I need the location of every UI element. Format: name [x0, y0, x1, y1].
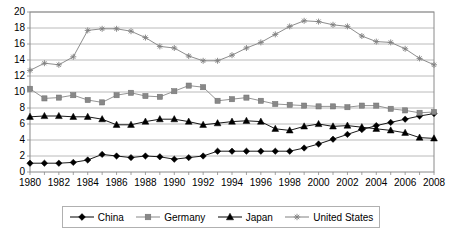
gridlines — [30, 12, 434, 156]
x-tick-label: 2008 — [418, 178, 450, 188]
y-tick-label: 18 — [0, 23, 25, 33]
series-japan — [27, 112, 438, 141]
chart-legend: ChinaGermanyJapanUnited States — [62, 206, 380, 228]
x-tick-label: 1988 — [129, 178, 161, 188]
legend-item-china[interactable]: China — [69, 211, 124, 223]
x-tick-label: 1996 — [245, 178, 277, 188]
star-marker-icon — [284, 211, 310, 223]
y-tick-label: 2 — [0, 151, 25, 161]
y-tick-label: 12 — [0, 71, 25, 81]
x-tick-label: 2004 — [360, 178, 392, 188]
y-tick-label: 8 — [0, 103, 25, 113]
x-tick-label: 2000 — [303, 178, 335, 188]
y-tick-label: 0 — [0, 167, 25, 177]
triangle-marker-icon — [217, 211, 243, 223]
x-tick-label: 1986 — [101, 178, 133, 188]
y-tick-label: 4 — [0, 135, 25, 145]
legend-item-label: United States — [313, 212, 373, 223]
x-tick-label: 1990 — [158, 178, 190, 188]
y-tick-label: 14 — [0, 55, 25, 65]
series-united-states — [27, 18, 437, 74]
square-marker-icon — [135, 211, 161, 223]
x-tick-label: 1992 — [187, 178, 219, 188]
series-germany — [27, 83, 436, 115]
x-tick-label: 1994 — [216, 178, 248, 188]
x-tick-label: 1980 — [14, 178, 46, 188]
y-tick-label: 6 — [0, 119, 25, 129]
legend-item-germany[interactable]: Germany — [135, 211, 205, 223]
x-tick-label: 2006 — [389, 178, 421, 188]
legend-item-label: China — [98, 212, 124, 223]
legend-item-label: Japan — [246, 212, 273, 223]
diamond-marker-icon — [69, 211, 95, 223]
x-tick-label: 1998 — [274, 178, 306, 188]
x-tick-label: 2002 — [331, 178, 363, 188]
y-tick-label: 20 — [0, 7, 25, 17]
x-tick-label: 1982 — [43, 178, 75, 188]
legend-item-united-states[interactable]: United States — [284, 211, 373, 223]
x-tick-label: 1984 — [72, 178, 104, 188]
y-tick-label: 10 — [0, 87, 25, 97]
y-tick-label: 16 — [0, 39, 25, 49]
legend-item-label: Germany — [164, 212, 205, 223]
legend-item-japan[interactable]: Japan — [217, 211, 273, 223]
